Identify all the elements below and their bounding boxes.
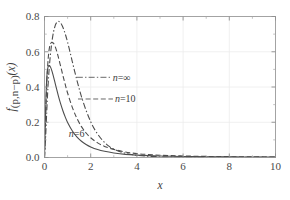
x-tick-label: 6: [180, 160, 186, 172]
x-tick-label: 10: [270, 160, 282, 172]
y-tick-label: 0.6: [26, 46, 40, 58]
y-tick-label: 0.4: [26, 81, 40, 93]
series-annotations: n=∞n=10n=6: [69, 72, 136, 139]
y-tick-label: 0.2: [26, 116, 40, 128]
curve-dashed: [45, 43, 276, 158]
series-label-value: 10: [126, 93, 136, 104]
series-label-text: n=∞: [113, 72, 131, 83]
y-axis-title: f(p,n−p)(x): [5, 62, 21, 111]
x-tick-label: 8: [227, 160, 233, 172]
annotation-leader-lines: [77, 77, 113, 99]
x-axis-title: x: [156, 179, 163, 191]
y-axis-title-subscript: (p,n−p): [8, 75, 21, 108]
series-label-solid: n=6: [69, 128, 85, 139]
x-tick-label: 4: [134, 160, 140, 172]
y-tick-label: 0.8: [26, 10, 40, 22]
y-axis-title-text: f(p,n−p)(x): [5, 62, 21, 111]
y-tick-labels: 0.00.20.40.60.8: [26, 10, 40, 163]
series-label-text: n=6: [69, 128, 85, 139]
y-tick-label: 0.0: [26, 151, 40, 163]
chart-figure: 0246810 0.00.20.40.60.8 n=∞n=10n=6 x f(p…: [0, 0, 290, 200]
series-label-text: n=10: [115, 93, 136, 104]
series-label-dashed: n=10: [115, 93, 136, 104]
y-axis-title-argument: (x): [5, 62, 18, 75]
series-label-value: ∞: [123, 72, 130, 83]
x-tick-label: 2: [88, 160, 94, 172]
plot-area: 0246810 0.00.20.40.60.8 n=∞n=10n=6 x f(p…: [0, 0, 290, 200]
x-tick-label: 0: [42, 160, 48, 172]
x-tick-labels: 0246810: [42, 160, 282, 172]
series-label-dashdot: n=∞: [113, 72, 131, 83]
series-label-value: 6: [79, 128, 84, 139]
curve-solid: [45, 65, 276, 157]
